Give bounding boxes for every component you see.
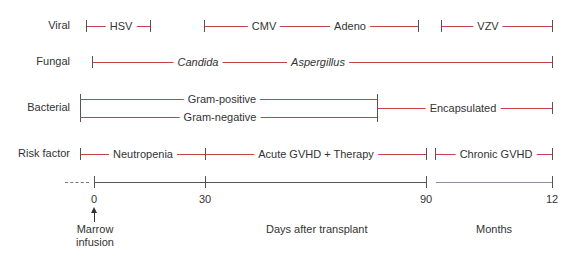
chronic-start-tick <box>435 148 436 160</box>
acute-end-tick <box>426 148 427 160</box>
marrow-infusion-label: Marrow infusion <box>76 223 114 249</box>
axis-label-12: 12 <box>546 193 558 205</box>
hsv-start-tick <box>86 20 87 32</box>
marrow-label-line2: infusion <box>76 236 114 249</box>
neutropenia-label: Neutropenia <box>109 148 177 160</box>
days-after-transplant-label: Days after transplant <box>266 223 368 235</box>
encapsulated-end-tick <box>552 102 553 114</box>
vzv-end-tick <box>552 20 553 32</box>
gram-negative-label: Gram-negative <box>180 111 261 123</box>
vzv-label: VZV <box>473 20 502 32</box>
chronic-gvhd-label: Chronic GVHD <box>456 148 537 160</box>
fungal-end-tick <box>552 56 553 68</box>
axis-label-90: 90 <box>420 193 432 205</box>
chronic-end-tick <box>552 148 553 160</box>
adeno-label: Adeno <box>330 20 370 32</box>
axis-label-0: 0 <box>91 193 97 205</box>
encapsulated-label: Encapsulated <box>426 102 501 114</box>
marrow-label-line1: Marrow <box>76 223 114 236</box>
row-label-viral: Viral <box>0 19 70 31</box>
day30-risk-tick <box>205 148 206 160</box>
axis-label-30: 30 <box>199 193 211 205</box>
cmv-start-tick <box>204 20 205 32</box>
cmv-label: CMV <box>248 20 280 32</box>
marrow-arrow-shaft <box>94 212 95 222</box>
vzv-start-tick <box>441 20 442 32</box>
hsv-end-tick <box>150 20 151 32</box>
fungal-start-tick <box>92 56 93 68</box>
row-label-fungal: Fungal <box>0 55 70 67</box>
acute-gvhd-label: Acute GVHD + Therapy <box>254 148 378 160</box>
hsv-label: HSV <box>106 20 137 32</box>
months-label: Months <box>476 223 512 235</box>
cmv-adeno-bar <box>204 26 418 27</box>
axis-tick-0 <box>94 176 95 188</box>
adeno-end-tick <box>418 20 419 32</box>
neutropenia-start-tick <box>80 148 81 160</box>
row-label-risk-factor: Risk factor <box>0 147 70 159</box>
aspergillus-label: Aspergillus <box>287 56 349 68</box>
days-axis-line <box>94 182 426 183</box>
axis-dashed-lead <box>65 182 89 183</box>
months-axis-line <box>436 182 552 183</box>
axis-tick-90 <box>426 176 427 188</box>
candida-label: Candida <box>174 56 223 68</box>
gram-positive-label: Gram-positive <box>184 93 260 105</box>
axis-tick-30 <box>205 176 206 188</box>
row-label-bacterial: Bacterial <box>0 101 70 113</box>
arrow-up-icon <box>91 207 97 213</box>
axis-tick-12 <box>552 176 553 188</box>
